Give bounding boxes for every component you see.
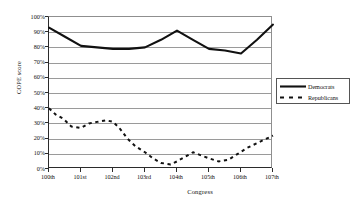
x-tick-mark <box>240 168 241 172</box>
y-tick-label: 50% <box>0 89 45 96</box>
y-tick-label: 90% <box>0 28 45 35</box>
legend-label-republicans: Republicans <box>306 93 338 102</box>
y-tick-label: 100% <box>0 13 45 20</box>
plot-area <box>48 16 272 168</box>
y-tick-label: 70% <box>0 58 45 65</box>
x-tick-mark <box>272 168 273 172</box>
y-tick-label: 60% <box>0 73 45 80</box>
x-tick-mark <box>112 168 113 172</box>
series-overlay <box>49 17 273 169</box>
x-axis-title: Congress <box>0 188 356 195</box>
legend-key-dashed-icon <box>280 93 306 102</box>
legend-item-democrats: Democrats <box>280 81 346 92</box>
y-tick-label: 40% <box>0 104 45 111</box>
y-tick-label: 20% <box>0 134 45 141</box>
y-tick-label: 10% <box>0 149 45 156</box>
x-tick-mark <box>144 168 145 172</box>
chart-legend: Democrats Republicans <box>276 78 350 104</box>
democrats-line <box>49 25 273 54</box>
y-tick-label: 30% <box>0 119 45 126</box>
legend-key-solid-icon <box>280 82 306 91</box>
republicans-line <box>49 108 273 164</box>
x-tick-mark <box>48 168 49 172</box>
x-tick-mark <box>176 168 177 172</box>
x-axis-title-text: Congress <box>187 188 213 195</box>
cope-score-line-chart: COPE score 0%10%20%30%40%50%60%70%80%90%… <box>0 0 356 205</box>
x-tick-mark <box>80 168 81 172</box>
legend-item-republicans: Republicans <box>280 92 346 103</box>
y-tick-label: 0% <box>0 165 45 172</box>
x-tick-mark <box>208 168 209 172</box>
x-tick-label: 107th <box>252 173 292 181</box>
legend-label-democrats: Democrats <box>306 82 334 91</box>
y-tick-label: 80% <box>0 43 45 50</box>
